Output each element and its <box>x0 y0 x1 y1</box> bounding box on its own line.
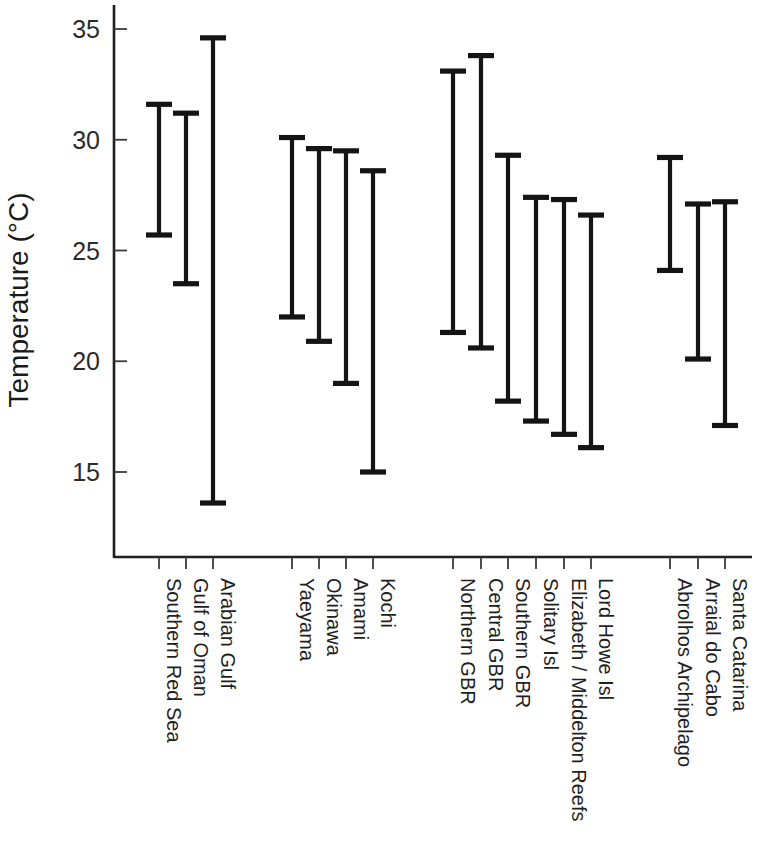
x-axis-ticks <box>159 557 725 569</box>
y-axis-title-text: Temperature (°C) <box>3 192 34 407</box>
x-axis-category-label: Okinawa <box>323 578 345 657</box>
x-axis-category-label: Arabian Gulf <box>217 578 239 690</box>
range-bar <box>657 157 683 270</box>
range-bar <box>146 104 172 235</box>
x-axis-category-label: Central GBR <box>485 578 507 691</box>
category-labels: Southern Red SeaGulf of OmanArabian Gulf… <box>163 578 751 821</box>
y-tick-label: 30 <box>72 126 100 154</box>
y-axis-title: Temperature (°C) <box>3 192 34 407</box>
range-bar <box>360 171 386 472</box>
chart-canvas: 1520253035 Temperature (°C) Southern Red… <box>0 0 758 856</box>
range-bar <box>523 197 549 421</box>
x-axis-category-label: Abrolhos Archipelago <box>674 578 696 767</box>
x-axis-category-label: Santa Catarina <box>729 578 751 712</box>
axes <box>114 5 752 558</box>
y-tick-label: 20 <box>72 347 100 375</box>
x-axis-category-label: Kochi <box>377 578 399 628</box>
range-bar <box>468 56 494 348</box>
x-axis-category-label: Gulf of Oman <box>190 578 212 697</box>
x-axis-category-label: Yaeyama <box>296 578 318 662</box>
x-axis-category-label: Northern GBR <box>457 578 479 705</box>
range-bar <box>173 113 199 284</box>
temperature-range-chart: 1520253035 Temperature (°C) Southern Red… <box>0 0 758 856</box>
x-axis-category-label: Amami <box>350 578 372 640</box>
y-axis-ticks: 1520253035 <box>72 15 127 486</box>
range-bar <box>333 151 359 384</box>
range-bar <box>578 215 604 448</box>
range-bar <box>200 38 226 503</box>
x-axis-category-label: Lord Howe Isl <box>595 578 617 700</box>
y-tick-label: 25 <box>72 237 100 265</box>
range-bar <box>685 204 711 359</box>
range-bar <box>306 149 332 342</box>
range-bar <box>495 155 521 401</box>
x-axis-category-label: Solitary Isl <box>540 578 562 670</box>
y-tick-label: 15 <box>72 458 100 486</box>
range-bar <box>551 200 577 435</box>
range-bar <box>712 202 738 426</box>
range-bar <box>279 138 305 317</box>
y-tick-label: 35 <box>72 15 100 43</box>
x-axis-category-label: Arraial do Cabo <box>702 578 724 717</box>
range-bars <box>146 38 738 503</box>
x-axis-category-label: Southern Red Sea <box>163 578 185 743</box>
x-axis-category-label: Elizabeth / Middelton Reefs <box>568 578 590 821</box>
x-axis-category-label: Southern GBR <box>512 578 534 708</box>
range-bar <box>440 71 466 332</box>
